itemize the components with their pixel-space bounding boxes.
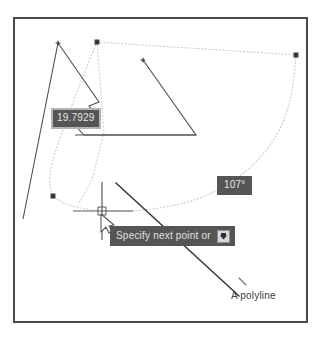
angle-value: 107° — [224, 179, 245, 190]
distance-value: 19.7929 — [57, 112, 95, 123]
command-prompt-text: Specify next point or — [116, 230, 211, 242]
angle-input-tooltip[interactable]: 107° — [217, 176, 252, 195]
command-prompt-tooltip[interactable]: Specify next point or — [110, 226, 235, 246]
dropdown-arrow-icon[interactable] — [217, 230, 230, 243]
cad-drawing-window: 19.7929 107° Specify next point or A pol… — [0, 0, 323, 344]
drawing-frame — [13, 17, 308, 323]
polyline-annotation-label: A polyline — [231, 290, 276, 301]
distance-input-tooltip[interactable]: 19.7929 — [51, 108, 101, 129]
